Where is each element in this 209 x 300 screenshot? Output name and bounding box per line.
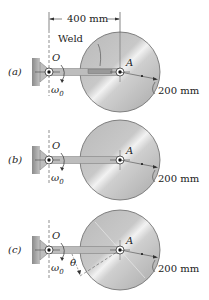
omega-label: ω0 xyxy=(51,85,64,98)
theta-label: θ xyxy=(70,258,76,268)
panel-label-c: (c) xyxy=(8,245,21,255)
pivot-label-O: O xyxy=(52,53,60,63)
pivot-label-O: O xyxy=(52,231,60,241)
radius-label: 200 mm xyxy=(158,86,199,96)
panel-label-b: (b) xyxy=(8,155,22,165)
weld xyxy=(88,70,112,74)
arm-OA xyxy=(50,157,120,164)
arm-OA xyxy=(50,247,120,254)
panel-a xyxy=(32,30,160,112)
diagram-canvas xyxy=(0,0,209,300)
omega-label: ω0 xyxy=(51,263,64,276)
pivot-label-O: O xyxy=(52,141,60,151)
weld-label: Weld xyxy=(58,34,83,44)
center-label-A: A xyxy=(126,146,133,156)
center-label-A: A xyxy=(126,58,133,68)
radius-label: 200 mm xyxy=(158,264,199,274)
panel-label-a: (a) xyxy=(8,67,22,77)
dimension-label: 400 mm xyxy=(67,14,108,24)
panel-b xyxy=(32,120,160,200)
omega-label: ω0 xyxy=(51,173,64,186)
center-label-A: A xyxy=(126,236,133,246)
panel-c xyxy=(32,210,160,290)
radius-label: 200 mm xyxy=(158,174,199,184)
